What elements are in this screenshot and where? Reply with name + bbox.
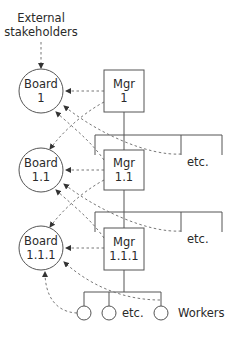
workers-label: Workers <box>178 306 225 320</box>
worker-node[interactable] <box>77 306 91 320</box>
manager-1-1-number: 1.1 <box>115 170 133 184</box>
manager-1-number: 1 <box>120 91 127 105</box>
board-1-1[interactable]: Board 1.1 <box>19 148 63 192</box>
manager-1[interactable]: Mgr 1 <box>104 70 144 112</box>
etc-label-level-2: etc. <box>187 232 209 246</box>
board-1-1-label: Board <box>24 156 58 170</box>
manager-1-1-1-number: 1.1.1 <box>109 249 138 263</box>
worker-node[interactable] <box>154 306 168 320</box>
manager-1-1[interactable]: Mgr 1.1 <box>104 150 144 190</box>
manager-1-1-label: Mgr <box>113 156 135 170</box>
hierarchy-lines <box>84 112 222 306</box>
etc-label-level-1: etc. <box>187 155 209 169</box>
manager-1-label: Mgr <box>113 77 135 91</box>
board-1-1-number: 1.1 <box>32 170 50 184</box>
board-1-number: 1 <box>37 91 44 105</box>
board-1[interactable]: Board 1 <box>19 69 63 113</box>
board-1-1-1[interactable]: Board 1.1.1 <box>19 226 63 270</box>
external-stakeholders-label: External stakeholders <box>4 11 78 39</box>
board-1-1-1-number: 1.1.1 <box>26 248 55 262</box>
etc-label-workers: etc. <box>122 306 144 320</box>
board-1-1-1-label: Board <box>24 234 58 248</box>
external-label-line2: stakeholders <box>4 25 78 39</box>
board-1-label: Board <box>24 77 58 91</box>
governance-hierarchy-diagram: External stakeholders <box>0 0 234 339</box>
external-label-line1: External <box>17 11 65 25</box>
manager-1-1-1[interactable]: Mgr 1.1.1 <box>104 228 144 270</box>
worker-node[interactable] <box>102 306 116 320</box>
influence-arrows <box>45 91 181 313</box>
manager-1-1-1-label: Mgr <box>113 235 135 249</box>
